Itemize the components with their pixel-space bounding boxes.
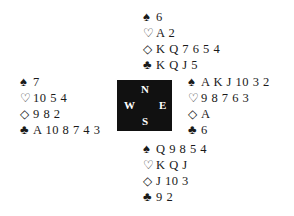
club-icon: ♣ xyxy=(188,122,201,138)
west-spades: ♠ 7 xyxy=(20,74,100,90)
diamond-icon: ◇ xyxy=(143,173,156,189)
south-diamonds: ◇ J 10 3 xyxy=(143,173,207,189)
west-hand: ♠ 7 ♡ 10 5 4 ◇ 9 8 2 ♣ A 10 8 7 4 3 xyxy=(20,74,100,138)
west-hearts: ♡ 10 5 4 xyxy=(20,90,100,106)
north-clubs: ♣ K Q J 5 xyxy=(143,57,220,73)
heart-icon: ♡ xyxy=(188,90,201,106)
north-diamonds: ◇ K Q 7 6 5 4 xyxy=(143,41,220,57)
spade-icon: ♠ xyxy=(188,74,201,90)
compass-west: W xyxy=(124,99,135,111)
diamond-icon: ◇ xyxy=(20,106,33,122)
west-diamonds: ◇ 9 8 2 xyxy=(20,106,100,122)
east-diamonds: ◇ A xyxy=(188,106,270,122)
club-icon: ♣ xyxy=(20,122,33,138)
east-spades: ♠ A K J 10 3 2 xyxy=(188,74,270,90)
north-hearts: ♡ A 2 xyxy=(143,25,220,41)
west-clubs: ♣ A 10 8 7 4 3 xyxy=(20,122,100,138)
compass-east: E xyxy=(159,99,166,111)
east-hearts: ♡ 9 8 7 6 3 xyxy=(188,90,270,106)
diamond-icon: ◇ xyxy=(188,106,201,122)
heart-icon: ♡ xyxy=(143,157,156,173)
east-clubs: ♣ 6 xyxy=(188,122,270,138)
north-spades: ♠ 6 xyxy=(143,9,220,25)
compass-north: N xyxy=(141,83,149,95)
club-icon: ♣ xyxy=(143,57,156,73)
south-spades: ♠ Q 9 8 5 4 xyxy=(143,141,207,157)
diamond-icon: ◇ xyxy=(143,41,156,57)
spade-icon: ♠ xyxy=(143,9,156,25)
club-icon: ♣ xyxy=(143,189,156,205)
heart-icon: ♡ xyxy=(20,90,33,106)
east-hand: ♠ A K J 10 3 2 ♡ 9 8 7 6 3 ◇ A ♣ 6 xyxy=(188,74,270,138)
heart-icon: ♡ xyxy=(143,25,156,41)
south-clubs: ♣ 9 2 xyxy=(143,189,207,205)
south-hearts: ♡ K Q J xyxy=(143,157,207,173)
spade-icon: ♠ xyxy=(20,74,33,90)
compass-south: S xyxy=(142,115,148,127)
south-hand: ♠ Q 9 8 5 4 ♡ K Q J ◇ J 10 3 ♣ 9 2 xyxy=(143,141,207,205)
compass-box: N W E S xyxy=(117,80,172,131)
spade-icon: ♠ xyxy=(143,141,156,157)
north-hand: ♠ 6 ♡ A 2 ◇ K Q 7 6 5 4 ♣ K Q J 5 xyxy=(143,9,220,73)
